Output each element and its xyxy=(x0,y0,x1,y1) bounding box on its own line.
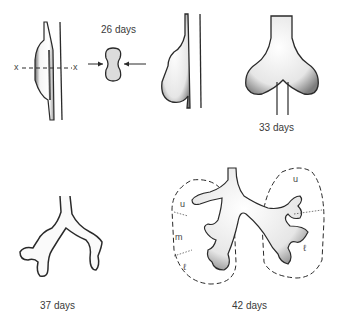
stage-26-side-view xyxy=(22,22,72,120)
label-26-days: 26 days xyxy=(101,24,136,35)
stage-42-bronchial-tree xyxy=(172,168,324,284)
stage-37-lobar-buds xyxy=(20,196,102,276)
stage-26-cross-section xyxy=(88,48,146,81)
lobe-label-left-upper: u xyxy=(180,199,185,209)
lobe-label-right-upper: u xyxy=(293,174,298,184)
stage-33-bifurcation xyxy=(246,16,319,115)
lobe-label-left-middle: m xyxy=(175,232,183,242)
label-42-days: 42 days xyxy=(232,300,267,311)
lobe-label-right-lower: ℓ xyxy=(303,243,306,253)
stage-28-side-view xyxy=(162,14,201,108)
section-marker-left: x xyxy=(14,62,19,72)
diagram-canvas xyxy=(0,0,338,319)
section-marker-right: x xyxy=(73,62,78,72)
label-37-days: 37 days xyxy=(40,300,75,311)
lobe-label-left-lower: ℓ xyxy=(183,262,186,272)
label-33-days: 33 days xyxy=(259,122,294,133)
